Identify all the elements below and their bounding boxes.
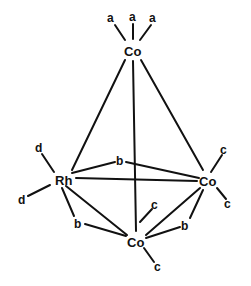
ligand-c-bottom-2: c [154,260,161,274]
bridge-b-right: b [181,219,188,233]
ligand-c-right-1: c [220,143,227,157]
atom-co-top: Co [124,44,141,59]
ligand-a-3: a [149,11,156,25]
top-co-ligand-bonds [115,24,151,40]
ligand-d-2: d [18,193,25,207]
rh-co-bottom-edges [62,186,127,236]
ligand-a-2: a [129,10,136,24]
ligand-d-1: d [35,141,42,155]
cluster-diagram: Co Rh Co Co a a a d d c c c c b b b [0,0,251,286]
atom-rh: Rh [55,173,72,188]
rhco3-cluster-structure: Co Rh Co Co a a a d d c c c c b b b [0,0,251,286]
atom-co-right: Co [199,174,216,189]
bridge-b-top: b [116,154,123,168]
rh-ligand-bonds [28,154,54,196]
ligand-c-bottom-1: c [151,198,158,212]
co-right-co-bottom-edges [146,188,203,238]
ligand-a-1: a [107,11,114,25]
bridge-b-left: b [74,217,81,231]
ligand-c-right-2: c [224,197,231,211]
atom-co-bottom: Co [127,235,144,250]
